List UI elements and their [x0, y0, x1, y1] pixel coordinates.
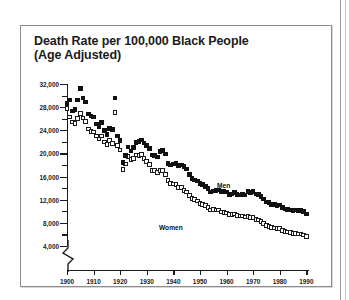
x-tick-1940 [173, 270, 174, 275]
data-point [147, 146, 152, 151]
figure-title-line1: Death Rate per 100,000 Black People [34, 34, 249, 48]
x-tick-label-1980: 1980 [273, 278, 287, 285]
series-label-men: Men [217, 182, 230, 189]
x-tick-1970 [253, 270, 254, 275]
x-tick-1920 [120, 270, 121, 275]
x-tick-label-1960: 1960 [219, 278, 233, 285]
figure-title-line2: (Age Adjusted) [34, 48, 314, 62]
data-point [99, 120, 104, 125]
data-point [113, 96, 118, 101]
y-tick-8000 [60, 223, 67, 224]
page-background: Death Rate per 100,000 Black People (Age… [0, 0, 349, 300]
x-tick-label-1920: 1920 [113, 278, 127, 285]
y-tick-label-28000: 28,000 [39, 104, 59, 111]
x-tick-1900 [67, 270, 68, 275]
data-point [67, 115, 72, 120]
data-point [163, 172, 168, 177]
y-tick-32000 [60, 84, 67, 85]
data-point [131, 145, 136, 150]
data-point [83, 100, 88, 105]
page-title: Death Rate per 100,000 Black People (Age… [34, 34, 314, 62]
data-point [147, 162, 152, 167]
axis-break-icon [61, 240, 75, 272]
page-edge-rule-secondary [345, 0, 346, 300]
y-tick-26000 [62, 119, 67, 120]
data-point [304, 234, 309, 239]
data-point [75, 98, 80, 103]
x-tick-label-1970: 1970 [246, 278, 260, 285]
y-tick-18000 [62, 165, 67, 166]
data-point [110, 141, 115, 146]
x-tick-1990 [306, 270, 307, 275]
x-axis-line [67, 270, 309, 271]
y-tick-22000 [62, 142, 67, 143]
data-point [121, 160, 126, 165]
y-tick-6000 [62, 234, 67, 235]
data-point [91, 115, 96, 120]
data-point [75, 116, 80, 121]
y-tick-label-24000: 24,000 [39, 127, 59, 134]
y-tick-label-4000: 4,000 [43, 243, 59, 250]
y-tick-label-20000: 20,000 [39, 150, 59, 157]
y-tick-30000 [62, 96, 67, 97]
data-point [65, 106, 70, 111]
data-point [73, 121, 78, 126]
data-point [155, 155, 160, 160]
data-point [118, 138, 123, 143]
x-tick-label-1950: 1950 [193, 278, 207, 285]
y-tick-4000 [60, 246, 67, 247]
x-tick-1950 [200, 270, 201, 275]
data-point [105, 132, 110, 137]
x-tick-1980 [280, 270, 281, 275]
y-tick-24000 [60, 130, 67, 131]
data-point [121, 167, 126, 172]
data-point [67, 98, 72, 103]
x-tick-1930 [147, 270, 148, 275]
data-point [110, 127, 115, 132]
page-edge-rule [340, 0, 341, 300]
data-point [73, 107, 78, 112]
data-point [118, 148, 123, 153]
x-tick-label-1900: 1900 [60, 278, 74, 285]
y-tick-label-32000: 32,000 [39, 81, 59, 88]
data-point [83, 119, 88, 124]
x-tick-1960 [227, 270, 228, 275]
y-tick-14000 [62, 188, 67, 189]
y-tick-label-16000: 16,000 [39, 173, 59, 180]
y-tick-label-8000: 8,000 [43, 219, 59, 226]
x-tick-label-1940: 1940 [166, 278, 180, 285]
chart-plot-area: 4,0008,00012,00016,00020,00024,00028,000… [67, 84, 310, 272]
x-tick-1910 [94, 270, 95, 275]
data-point [105, 142, 110, 147]
x-tick-label-1910: 1910 [86, 278, 100, 285]
series-label-women: Women [159, 224, 183, 231]
x-tick-label-1930: 1930 [140, 278, 154, 285]
data-point [163, 152, 168, 157]
x-tick-label-1990: 1990 [299, 278, 313, 285]
y-tick-20000 [60, 153, 67, 154]
data-point [304, 212, 309, 217]
data-point [99, 134, 104, 139]
data-point [184, 167, 189, 172]
y-tick-12000 [60, 200, 67, 201]
data-point [78, 86, 83, 91]
y-tick-16000 [60, 177, 67, 178]
y-tick-10000 [62, 211, 67, 212]
data-point [123, 153, 128, 158]
figure-frame: Death Rate per 100,000 Black People (Age… [20, 25, 332, 287]
data-point [113, 110, 118, 115]
y-tick-label-12000: 12,000 [39, 196, 59, 203]
